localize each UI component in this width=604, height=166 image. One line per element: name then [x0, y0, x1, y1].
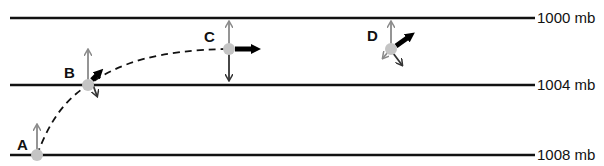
point-c: C: [204, 22, 255, 80]
isobar-label: 1008 mb: [537, 146, 595, 163]
isobar-1008: 1008 mb: [10, 146, 595, 163]
point-label: C: [204, 28, 215, 45]
point-d: D: [367, 22, 410, 65]
pressure-gradient-diagram: 1000 mb 1004 mb 1008 mb A B C D: [0, 0, 604, 166]
isobar-1000: 1000 mb: [10, 9, 595, 26]
isobar-label: 1004 mb: [537, 76, 595, 93]
isobar-label: 1000 mb: [537, 9, 595, 26]
parcel-dot: [223, 43, 235, 55]
point-label: D: [367, 27, 378, 44]
point-b: B: [64, 50, 99, 96]
point-label: A: [17, 136, 28, 153]
point-label: B: [64, 64, 75, 81]
parcel-dot: [385, 43, 397, 55]
coriolis-arrow-icon: [393, 53, 402, 65]
parcel-dot: [82, 79, 94, 91]
parcel-dot: [31, 149, 43, 161]
velocity-arrow-icon: [396, 36, 410, 46]
